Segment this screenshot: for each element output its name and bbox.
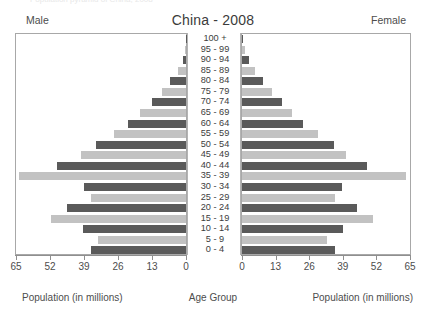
female-bar (242, 67, 255, 75)
axis-tick (376, 255, 377, 260)
female-bar (242, 120, 303, 128)
bar-row (242, 140, 410, 151)
axis-tick-label: 39 (69, 261, 99, 272)
age-group-label: 100 + (188, 33, 242, 44)
bar-row (16, 76, 186, 87)
top-caption: Population pyramid of China, 2008 (30, 0, 330, 5)
female-bar (242, 35, 243, 43)
male-bar (91, 194, 186, 202)
bar-row (16, 34, 186, 45)
female-x-axis-line (241, 255, 411, 256)
age-group-axis-column: 100 +95 - 9990 - 9485 - 8980 - 8475 - 79… (187, 33, 241, 255)
bar-row (242, 119, 410, 130)
bar-row (242, 76, 410, 87)
male-bar (83, 225, 186, 233)
male-bar (140, 109, 186, 117)
bar-row (242, 171, 410, 182)
female-bar (242, 88, 272, 96)
bar-row (242, 87, 410, 98)
bar-row (16, 224, 186, 235)
axis-tick (16, 255, 17, 260)
female-bar (242, 46, 245, 54)
male-plot-panel (15, 33, 187, 255)
bar-row (16, 203, 186, 214)
axis-tick (84, 255, 85, 260)
female-bar (242, 172, 406, 180)
bar-row (242, 66, 410, 77)
bar-row (242, 97, 410, 108)
age-group-label: 55 - 59 (188, 128, 242, 139)
bar-row (16, 235, 186, 246)
female-bar-rows (242, 34, 410, 254)
male-bar (96, 141, 186, 149)
axis-tick-label: 13 (261, 261, 291, 272)
bar-row (16, 171, 186, 182)
age-group-label: 45 - 49 (188, 149, 242, 160)
axis-tick (276, 255, 277, 260)
male-bar (162, 88, 186, 96)
female-bar (242, 162, 367, 170)
female-bar (242, 98, 282, 106)
axis-tick (152, 255, 153, 260)
age-group-label: 40 - 44 (188, 160, 242, 171)
female-axis-title: Population (in millions) (312, 292, 413, 303)
age-group-label: 15 - 19 (188, 213, 242, 224)
axis-tick-label: 52 (361, 261, 391, 272)
female-bar (242, 215, 373, 223)
bar-row (16, 161, 186, 172)
female-legend-label: Female (371, 14, 406, 26)
male-bar (84, 183, 186, 191)
bar-row (16, 45, 186, 56)
axis-tick-label: 65 (395, 261, 425, 272)
bar-row (242, 34, 410, 45)
male-bar (81, 151, 186, 159)
axis-tick-label: 65 (1, 261, 31, 272)
male-bar (91, 246, 186, 254)
population-pyramid-chart: Population pyramid of China, 2008 Male C… (0, 0, 426, 322)
female-bar (242, 141, 334, 149)
bar-row (16, 119, 186, 130)
axis-tick-label: 52 (35, 261, 65, 272)
bar-row (16, 193, 186, 204)
bar-row (242, 193, 410, 204)
bar-row (16, 97, 186, 108)
age-group-label: 50 - 54 (188, 139, 242, 150)
female-bar (242, 236, 327, 244)
bar-row (16, 129, 186, 140)
axis-tick-label: 26 (294, 261, 324, 272)
chart-header: Male China - 2008 Female (0, 14, 426, 32)
female-bar (242, 183, 342, 191)
female-bar (242, 130, 318, 138)
age-group-label: 80 - 84 (188, 75, 242, 86)
age-group-label: 85 - 89 (188, 65, 242, 76)
bar-row (16, 108, 186, 119)
male-bar (51, 215, 186, 223)
axis-tick (118, 255, 119, 260)
age-group-label: 30 - 34 (188, 181, 242, 192)
age-group-label: 10 - 14 (188, 223, 242, 234)
bar-row (16, 182, 186, 193)
female-bar (242, 194, 335, 202)
axis-tick-label: 39 (328, 261, 358, 272)
bar-row (242, 45, 410, 56)
bar-row (242, 108, 410, 119)
axis-tick (242, 255, 243, 260)
age-group-label: 65 - 69 (188, 107, 242, 118)
bar-row (16, 87, 186, 98)
male-bar (19, 172, 186, 180)
axis-tick (343, 255, 344, 260)
male-x-axis-line (15, 255, 187, 256)
age-group-label: 25 - 29 (188, 192, 242, 203)
axis-tick (186, 255, 187, 260)
male-bar (152, 98, 186, 106)
bar-row (242, 182, 410, 193)
female-bar (242, 204, 357, 212)
female-bar (242, 109, 292, 117)
female-bar (242, 246, 335, 254)
male-bar (183, 56, 186, 64)
age-group-label: 70 - 74 (188, 96, 242, 107)
female-bar (242, 225, 343, 233)
age-group-label: 35 - 39 (188, 170, 242, 181)
axis-tick (309, 255, 310, 260)
female-bar (242, 151, 346, 159)
